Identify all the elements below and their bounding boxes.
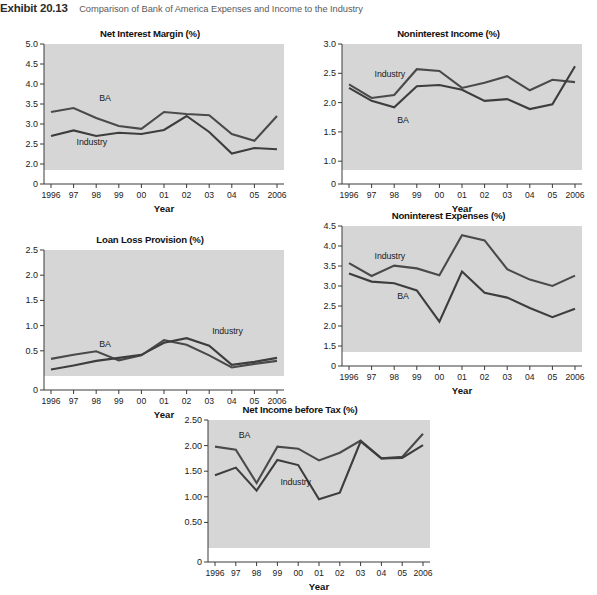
x-tick-label: 99 xyxy=(114,190,124,200)
y-tick-label: 1.50 xyxy=(158,466,202,476)
x-tick-label: 01 xyxy=(457,190,467,200)
y-tick-label: 2.0 xyxy=(306,98,336,108)
y-tick-label: 4.5 xyxy=(306,221,336,231)
x-tick-label: 99 xyxy=(114,396,124,406)
x-axis-title: Year xyxy=(309,581,329,592)
y-tick-label: 4.0 xyxy=(6,79,38,89)
y-tick-label: 3.0 xyxy=(306,39,336,49)
x-axis-title: Year xyxy=(452,385,472,396)
y-tick-label: 1.00 xyxy=(158,492,202,502)
x-tick-label: 99 xyxy=(412,372,422,382)
x-tick-label: 99 xyxy=(412,190,422,200)
y-tick-label: 3.5 xyxy=(6,99,38,109)
y-tick-label: 5.0 xyxy=(6,39,38,49)
x-tick-label: 00 xyxy=(435,190,445,200)
y-tick-label: 1.0 xyxy=(306,156,336,166)
y-tick-label: 4.5 xyxy=(6,59,38,69)
x-tick-label: 1996 xyxy=(205,568,224,578)
x-tick-label: 2006 xyxy=(413,568,432,578)
y-tick-label: 4.0 xyxy=(306,241,336,251)
y-tick-label: 3.0 xyxy=(306,281,336,291)
x-tick-label: 04 xyxy=(525,190,535,200)
x-tick-label: 97 xyxy=(231,568,241,578)
y-tick-label: 0 xyxy=(158,557,202,567)
x-tick-label: 2006 xyxy=(267,190,286,200)
chart-panel-net-income-before-tax: Net Income before Tax (%)BAIndustry00.50… xyxy=(150,404,450,589)
x-tick-label: 1996 xyxy=(339,190,358,200)
y-tick-label: 2.5 xyxy=(306,301,336,311)
x-tick-label: 98 xyxy=(91,396,101,406)
x-tick-label: 04 xyxy=(227,190,237,200)
y-tick-label: 3.5 xyxy=(306,261,336,271)
chart-panel-loan-loss-provision: Loan Loss Provision (%)BAIndustry00.51.0… xyxy=(0,234,300,409)
x-tick-label: 1996 xyxy=(41,396,60,406)
y-tick-label: 0 xyxy=(306,179,336,189)
exhibit-number: Exhibit 20.13 xyxy=(0,2,68,14)
x-tick-label: 05 xyxy=(250,190,260,200)
x-tick-label: 2006 xyxy=(565,372,584,382)
y-tick-label: 1.5 xyxy=(6,295,38,305)
x-tick-label: 1996 xyxy=(339,372,358,382)
y-tick-label: 0 xyxy=(6,179,38,189)
x-tick-label: 98 xyxy=(91,190,101,200)
x-tick-label: 1996 xyxy=(41,190,60,200)
y-tick-label: 1.5 xyxy=(306,127,336,137)
x-tick-label: 98 xyxy=(389,190,399,200)
x-tick-label: 05 xyxy=(397,568,407,578)
x-tick-label: 00 xyxy=(137,190,147,200)
x-tick-label: 99 xyxy=(273,568,283,578)
chart-panel-noninterest-income: Noninterest Income (%)IndustryBA01.01.52… xyxy=(300,28,597,203)
x-tick-label: 01 xyxy=(314,568,324,578)
x-tick-label: 02 xyxy=(480,372,490,382)
x-tick-label: 98 xyxy=(389,372,399,382)
x-tick-label: 00 xyxy=(137,396,147,406)
y-tick-label: 0.50 xyxy=(158,517,202,527)
y-tick-label: 2.5 xyxy=(6,139,38,149)
x-tick-label: 04 xyxy=(377,568,387,578)
axes-canvas xyxy=(300,210,597,385)
y-tick-label: 2.0 xyxy=(306,321,336,331)
x-axis-title: Year xyxy=(154,203,174,214)
y-tick-label: 0 xyxy=(306,361,336,371)
y-tick-label: 1.5 xyxy=(306,341,336,351)
exhibit-caption: Comparison of Bank of America Expenses a… xyxy=(79,4,363,14)
x-tick-label: 97 xyxy=(367,190,377,200)
exhibit-page: Exhibit 20.13 Comparison of Bank of Amer… xyxy=(0,0,597,595)
x-tick-label: 03 xyxy=(502,190,512,200)
x-tick-label: 01 xyxy=(457,372,467,382)
x-tick-label: 03 xyxy=(356,568,366,578)
y-tick-label: 2.0 xyxy=(6,270,38,280)
chart-panel-net-interest-margin: Net Interest Margin (%)BAIndustry02.02.5… xyxy=(0,28,300,203)
y-tick-label: 1.0 xyxy=(6,321,38,331)
x-tick-label: 02 xyxy=(335,568,345,578)
y-tick-label: 2.5 xyxy=(6,245,38,255)
x-tick-label: 2006 xyxy=(565,190,584,200)
x-tick-label: 01 xyxy=(159,190,169,200)
axes-canvas xyxy=(0,234,300,409)
y-tick-label: 2.00 xyxy=(158,441,202,451)
x-tick-label: 05 xyxy=(548,190,558,200)
x-tick-label: 97 xyxy=(69,396,79,406)
x-tick-label: 03 xyxy=(502,372,512,382)
chart-panel-noninterest-expenses: Noninterest Expenses (%)IndustryBA01.52.… xyxy=(300,210,597,385)
y-tick-label: 2.0 xyxy=(6,159,38,169)
y-tick-label: 3.0 xyxy=(6,119,38,129)
exhibit-heading: Exhibit 20.13 Comparison of Bank of Amer… xyxy=(0,0,597,14)
x-tick-label: 98 xyxy=(252,568,262,578)
y-tick-label: 2.5 xyxy=(306,68,336,78)
x-tick-label: 04 xyxy=(525,372,535,382)
x-tick-label: 02 xyxy=(182,190,192,200)
axes-canvas xyxy=(300,28,597,203)
axes-canvas xyxy=(0,28,300,203)
x-tick-label: 05 xyxy=(548,372,558,382)
y-tick-label: 0 xyxy=(6,385,38,395)
x-tick-label: 02 xyxy=(480,190,490,200)
y-tick-label: 0.5 xyxy=(6,346,38,356)
x-tick-label: 00 xyxy=(435,372,445,382)
x-tick-label: 97 xyxy=(367,372,377,382)
x-tick-label: 97 xyxy=(69,190,79,200)
x-tick-label: 03 xyxy=(204,190,214,200)
y-tick-label: 2.50 xyxy=(158,415,202,425)
x-tick-label: 00 xyxy=(293,568,303,578)
